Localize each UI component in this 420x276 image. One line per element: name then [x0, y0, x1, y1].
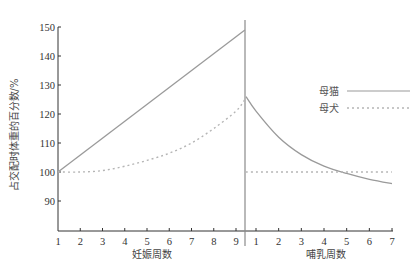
dog-gestation-line [58, 100, 245, 173]
x-tick-label-gestation: 7 [189, 236, 194, 247]
y-tick-label: 130 [39, 80, 55, 91]
y-tick-label: 140 [39, 51, 55, 62]
x-tick-label-gestation: 1 [55, 236, 60, 247]
x-tick-label-gestation: 5 [144, 236, 149, 247]
cat-gestation-line [58, 30, 245, 172]
x-axis: 1234567891234567 [55, 228, 394, 247]
plot-area [58, 30, 392, 184]
x-tick-label-lactation: 6 [367, 236, 372, 247]
x-tick-label-lactation: 7 [389, 236, 394, 247]
y-axis: 90100110120130140150 [39, 22, 61, 231]
legend: 母猫 母犬 [319, 85, 410, 114]
chart: 90100110120130140150 1234567891234567 占交… [0, 0, 420, 276]
x-tick-label-gestation: 8 [211, 236, 216, 247]
y-tick-label: 100 [39, 167, 55, 178]
x-tick-label-lactation: 2 [276, 236, 281, 247]
y-tick-label: 110 [40, 138, 55, 149]
x-axis-title-lactation: 哺乳周数 [306, 248, 346, 260]
legend-label-dog: 母犬 [319, 102, 339, 114]
y-tick-label: 120 [39, 109, 55, 120]
x-tick-label-gestation: 6 [167, 236, 172, 247]
y-tick-label: 90 [45, 196, 56, 207]
x-tick-label-lactation: 5 [344, 236, 349, 247]
x-tick-label-gestation: 9 [233, 236, 238, 247]
x-tick-label-lactation: 4 [321, 236, 327, 247]
x-tick-label-lactation: 3 [299, 236, 304, 247]
x-tick-label-lactation: 1 [253, 236, 258, 247]
y-tick-label: 150 [39, 22, 55, 33]
x-tick-label-gestation: 3 [100, 236, 105, 247]
x-tick-label-gestation: 4 [122, 236, 128, 247]
x-axis-title-gestation: 妊娠周数 [132, 248, 172, 260]
x-tick-label-gestation: 2 [78, 236, 83, 247]
y-axis-title: 占交配时体重的百分数/% [8, 79, 20, 192]
legend-label-cat: 母猫 [319, 85, 339, 97]
